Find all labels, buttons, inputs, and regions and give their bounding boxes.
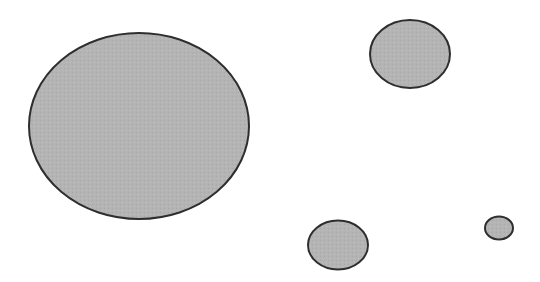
top-right-ellipse	[370, 20, 450, 88]
ellipses-diagram	[0, 0, 540, 282]
small-ellipse	[485, 217, 513, 240]
large-ellipse	[29, 33, 249, 219]
diagram-canvas	[0, 0, 540, 282]
bottom-middle-ellipse	[308, 221, 368, 270]
